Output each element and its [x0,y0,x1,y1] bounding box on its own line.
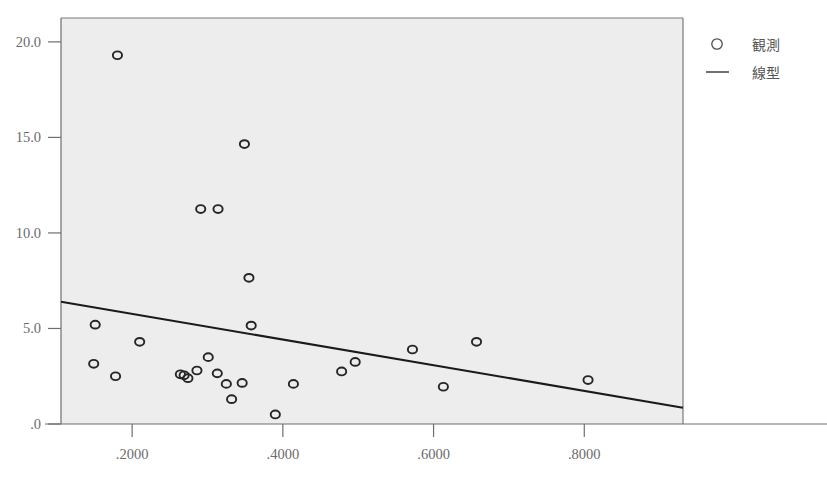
legend-label-observed: 観測 [752,37,780,53]
x-tick-label-3: .6000 [417,446,450,462]
y-axis-ticks: .05.010.015.020.0 [16,34,61,432]
y-tick-label-1: .0 [30,416,41,432]
legend: 観測 線型 [706,37,780,81]
y-tick-label-4: 15.0 [16,129,41,145]
y-tick-label-2: 5.0 [23,320,41,336]
x-tick-label-2: .4000 [267,446,300,462]
x-tick-label-4: .8000 [568,446,601,462]
legend-entry-observed: 観測 [712,37,780,53]
y-tick-label-5: 20.0 [16,34,41,50]
y-tick-label-3: 10.0 [16,225,41,241]
legend-label-linear: 線型 [752,65,780,81]
x-axis-ticks: .2000.4000.6000.8000 [116,424,601,462]
scatter-chart: .05.010.015.020.0 .2000.4000.6000.8000 観… [0,0,827,486]
plot-canvas: .05.010.015.020.0 .2000.4000.6000.8000 観… [0,0,827,486]
legend-circle-marker-icon [712,39,722,49]
legend-entry-linear: 線型 [706,65,780,81]
plot-area-background [61,18,683,424]
x-tick-label-1: .2000 [116,446,149,462]
